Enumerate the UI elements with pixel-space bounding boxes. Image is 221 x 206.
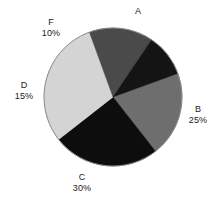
pie-label-f-name: F	[34, 17, 68, 28]
pie-label-f: F 10%	[34, 17, 68, 39]
pie-label-d-percent: 15%	[6, 91, 42, 102]
pie-label-f-percent: 10%	[34, 28, 68, 39]
pie-label-d-name: D	[6, 80, 42, 91]
pie-label-c-name: C	[64, 172, 100, 183]
pie-slices-group	[44, 28, 182, 166]
pie-label-b: B 25%	[180, 104, 216, 126]
pie-label-a-name: A	[122, 6, 154, 17]
pie-label-c: C 30%	[64, 172, 100, 194]
pie-chart-figure: A B 25% C 30% D 15% F 10%	[0, 0, 221, 206]
pie-label-b-name: B	[180, 104, 216, 115]
pie-label-d: D 15%	[6, 80, 42, 102]
pie-label-b-percent: 25%	[180, 115, 216, 126]
pie-label-a: A	[122, 6, 154, 17]
pie-label-c-percent: 30%	[64, 183, 100, 194]
